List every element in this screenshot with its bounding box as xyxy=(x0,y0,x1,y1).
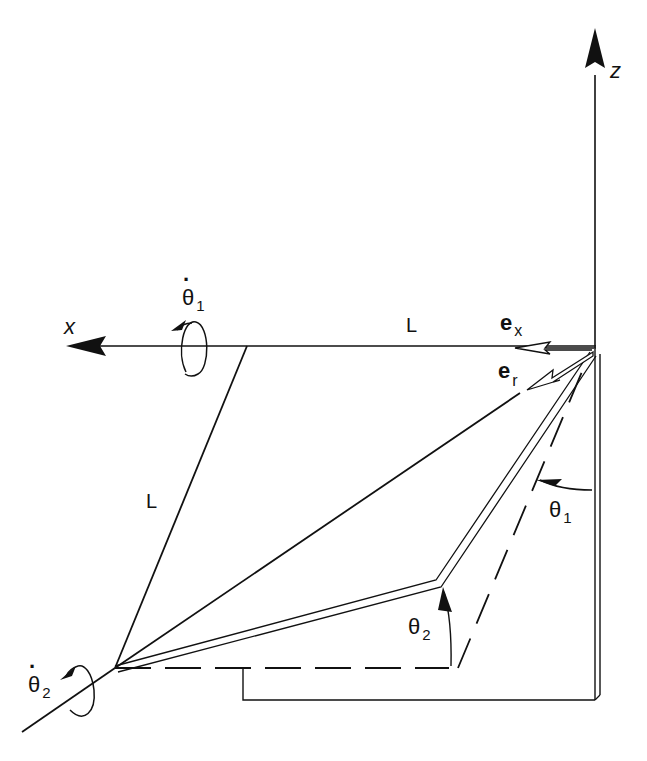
z-axis-arrowhead-icon xyxy=(585,28,605,68)
x-axis-arrowhead-icon xyxy=(66,336,106,356)
x-axis-label: x xyxy=(63,314,76,339)
angle-theta1: θ1 xyxy=(536,479,592,526)
link-1: L xyxy=(115,346,247,668)
er-arrow-icon xyxy=(527,352,593,390)
unit-vector-ex: ex xyxy=(500,310,596,354)
theta1-label: θ1 xyxy=(549,497,572,526)
link-1-length-label: L xyxy=(146,490,157,512)
z-axis-label: z xyxy=(609,58,621,83)
projection-dashed xyxy=(115,362,586,668)
rotation-rate-2: θ2 · xyxy=(28,654,94,716)
two-link-arm-diagram: z x L L ex xyxy=(0,0,647,761)
rate1-dot: · xyxy=(183,267,190,292)
rate1-arrowhead-icon xyxy=(171,320,186,331)
ex-label: ex xyxy=(500,310,522,339)
ex-arrow-icon xyxy=(515,342,596,354)
radial-line xyxy=(115,393,520,668)
unit-vector-er: er xyxy=(498,352,593,390)
theta2-label: θ2 xyxy=(408,614,431,643)
x-link-length-label: L xyxy=(406,314,417,336)
er-label: er xyxy=(498,358,518,389)
rotation-rate-1: θ1 · xyxy=(171,267,207,376)
support-plate xyxy=(243,346,600,700)
angle-theta2: θ2 xyxy=(408,587,452,666)
z-axis: z xyxy=(585,28,621,346)
theta2-arrowhead-icon xyxy=(438,587,452,612)
theta1-arrowhead-icon xyxy=(536,479,562,486)
rate2-dot: · xyxy=(29,654,36,679)
